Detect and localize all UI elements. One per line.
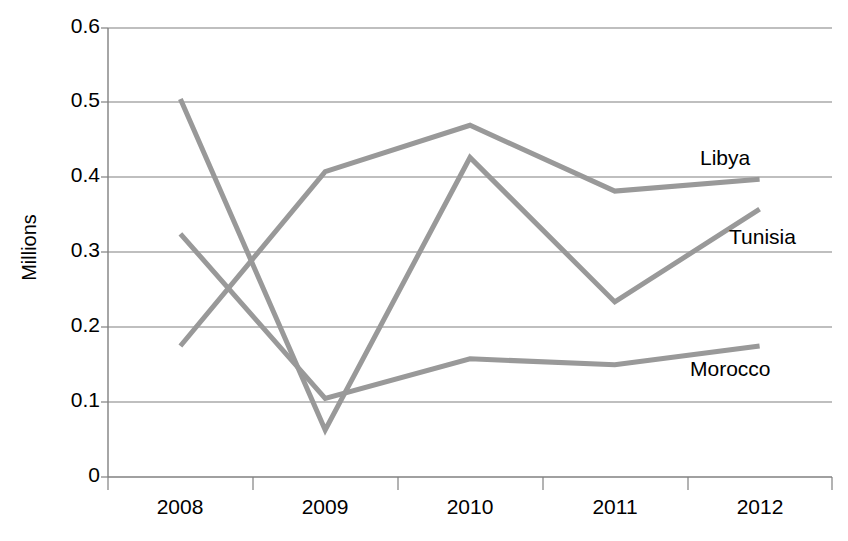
- series-line-tunisia: [180, 99, 759, 430]
- x-tick-label-2008: 2008: [120, 495, 240, 519]
- gridlines: [108, 28, 832, 402]
- x-tick-label-2010: 2010: [410, 495, 530, 519]
- series-label-libya: Libya: [700, 146, 750, 170]
- x-tick-label-2011: 2011: [555, 495, 675, 519]
- y-axis-ticks: [101, 28, 108, 477]
- x-tick-label-2012: 2012: [700, 495, 820, 519]
- x-tick-label-2009: 2009: [265, 495, 385, 519]
- line-chart: Millions 0.6 0.5 0.4 0.3 0.2 0.1 0: [0, 0, 848, 541]
- series-line-morocco: [180, 234, 759, 399]
- series-layer: [180, 99, 759, 430]
- plot-area: [0, 0, 848, 541]
- series-label-tunisia: Tunisia: [729, 225, 796, 249]
- series-label-morocco: Morocco: [690, 357, 771, 381]
- x-axis-ticks: [108, 477, 832, 490]
